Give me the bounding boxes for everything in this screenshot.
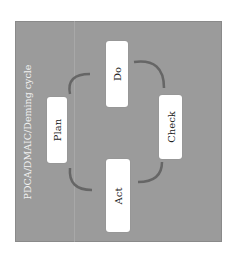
- arrow-do-to-check: [134, 62, 164, 88]
- arrow-act-to-plan: [70, 168, 92, 190]
- arrow-check-to-act: [138, 162, 162, 182]
- arrow-plan-to-do: [69, 74, 90, 94]
- cycle-arrows: [0, 0, 235, 264]
